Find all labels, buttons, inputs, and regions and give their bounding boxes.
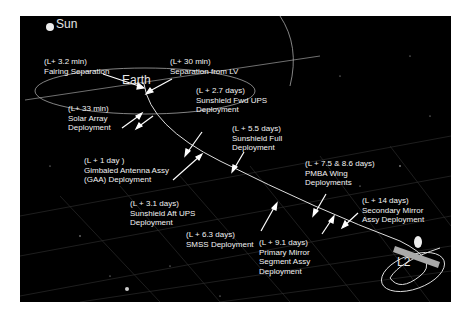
event-sunshield-aft-ups: (L + 3.1 days) Sunshield Aft UPS Deploym… [130,199,195,228]
event-pmba-wing: (L + 7.5 & 8.6 days) PMBA Wing Deploymen… [305,159,375,188]
event-solar-array: (L+ 33 min) Solar Array Deployment [68,104,111,133]
l2-label: L2 [397,258,410,268]
event-separation-from-lv: (L+ 30 min) Separation from LV [170,57,238,76]
deployment-timeline-diagram: Sun Earth L2 (L+ 3.2 min) Fairing Separa… [20,16,451,302]
event-sunshield-full: (L + 5.5 days) Sunshield Full Deployment [232,124,282,153]
event-gaa-deployment: (L + 1 day ) Gimbaled Antenna Assy (GAA)… [84,156,169,185]
sun-label: Sun [56,20,77,30]
event-sunshield-fwd-ups: (L + 2.7 days) Sunshield Fwd UPS Deploym… [196,86,267,115]
sun-icon [46,23,54,31]
earth-label: Earth [122,76,151,86]
event-secondary-mirror: (L + 14 days) Secondary Mirror Assy Depl… [362,196,424,225]
event-smss-deployment: (L + 6.3 days) SMSS Deployment [186,230,254,249]
orbit-arc [280,16,293,86]
event-fairing-separation: (L+ 3.2 min) Fairing Separation [44,57,109,76]
event-primary-mirror: (L + 9.1 days) Primary Mirror Segment As… [259,238,310,276]
